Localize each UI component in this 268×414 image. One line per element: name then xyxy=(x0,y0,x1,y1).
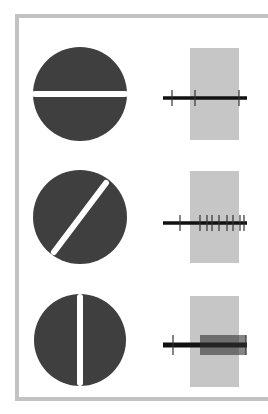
panel-vertical xyxy=(34,294,247,387)
stimulus-window xyxy=(190,171,239,263)
panel-horizontal xyxy=(33,47,247,141)
panel-oblique xyxy=(33,170,247,264)
orientation-tuning-figure xyxy=(0,0,268,414)
stimulus-window xyxy=(190,48,239,140)
